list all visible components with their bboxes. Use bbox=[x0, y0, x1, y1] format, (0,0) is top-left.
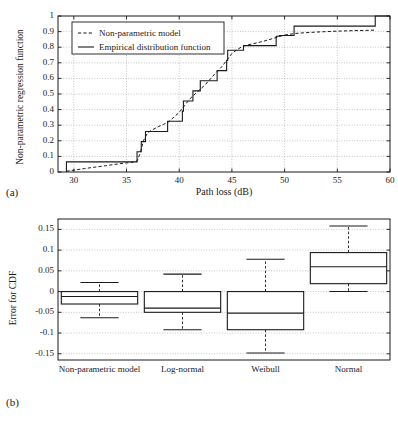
panel-b-y-tick-label: 0.05 bbox=[18, 265, 54, 275]
panel-a-y-tick-label: 0.4 bbox=[24, 104, 54, 114]
panel-a-x-tick-label: 55 bbox=[323, 175, 351, 185]
figure-container: Non-parametric modelEmpirical distributi… bbox=[0, 0, 398, 421]
panel-b-y-axis-title: Error for CDF bbox=[8, 243, 18, 353]
panel-b-y-tick-label: 0.15 bbox=[18, 223, 54, 233]
panel-a-y-tick-label: 0.2 bbox=[24, 135, 54, 145]
panel-b-boxplot-chart: 0.150.10.050-0.05-0.1-0.15Non-parametric… bbox=[0, 205, 398, 421]
boxplot-box bbox=[144, 274, 220, 330]
panel-a-x-tick-label: 40 bbox=[165, 175, 193, 185]
panel-b-y-tick-label: -0.15 bbox=[18, 348, 54, 358]
panel-a-x-tick-label: 35 bbox=[113, 175, 141, 185]
panel-a-y-tick-label: 0.6 bbox=[24, 72, 54, 82]
panel-b-y-tick-label: 0 bbox=[18, 286, 54, 296]
panel-a-legend: Non-parametric modelEmpirical distributi… bbox=[72, 22, 224, 54]
panel-a-x-tick-label: 45 bbox=[218, 175, 246, 185]
panel-a-y-tick-label: 0.3 bbox=[24, 119, 54, 129]
panel-a-y-tick-label: 0.5 bbox=[24, 88, 54, 98]
panel-a-x-tick-label: 30 bbox=[60, 175, 88, 185]
panel-a-label: (a) bbox=[6, 186, 18, 198]
panel-a-y-tick-label: 0.9 bbox=[24, 26, 54, 36]
panel-a-y-tick-label: 0 bbox=[24, 166, 54, 176]
panel-a-x-tick-label: 50 bbox=[271, 175, 299, 185]
boxplot-svg bbox=[0, 205, 398, 421]
panel-a-cdf-chart: Non-parametric modelEmpirical distributi… bbox=[0, 0, 398, 205]
panel-b-label: (b) bbox=[6, 396, 19, 408]
panel-a-y-tick-label: 0.7 bbox=[24, 57, 54, 67]
panel-a-x-tick-label: 60 bbox=[376, 175, 398, 185]
panel-b-category-label: Normal bbox=[294, 364, 398, 374]
panel-a-y-tick-label: 0.8 bbox=[24, 41, 54, 51]
panel-b-y-tick-label: -0.05 bbox=[18, 306, 54, 316]
legend-label: Non-parametric model bbox=[99, 28, 181, 38]
panel-b-y-tick-label: -0.1 bbox=[18, 327, 54, 337]
boxplot-box bbox=[310, 226, 386, 292]
panel-a-y-tick-label: 0.1 bbox=[24, 150, 54, 160]
panel-a-y-tick-label: 1 bbox=[24, 10, 54, 20]
legend-label: Empirical distribution function bbox=[99, 42, 211, 52]
panel-a-x-axis-title: Path loss (dB) bbox=[58, 186, 390, 197]
panel-b-y-tick-label: 0.1 bbox=[18, 244, 54, 254]
boxplot-box bbox=[227, 259, 303, 353]
